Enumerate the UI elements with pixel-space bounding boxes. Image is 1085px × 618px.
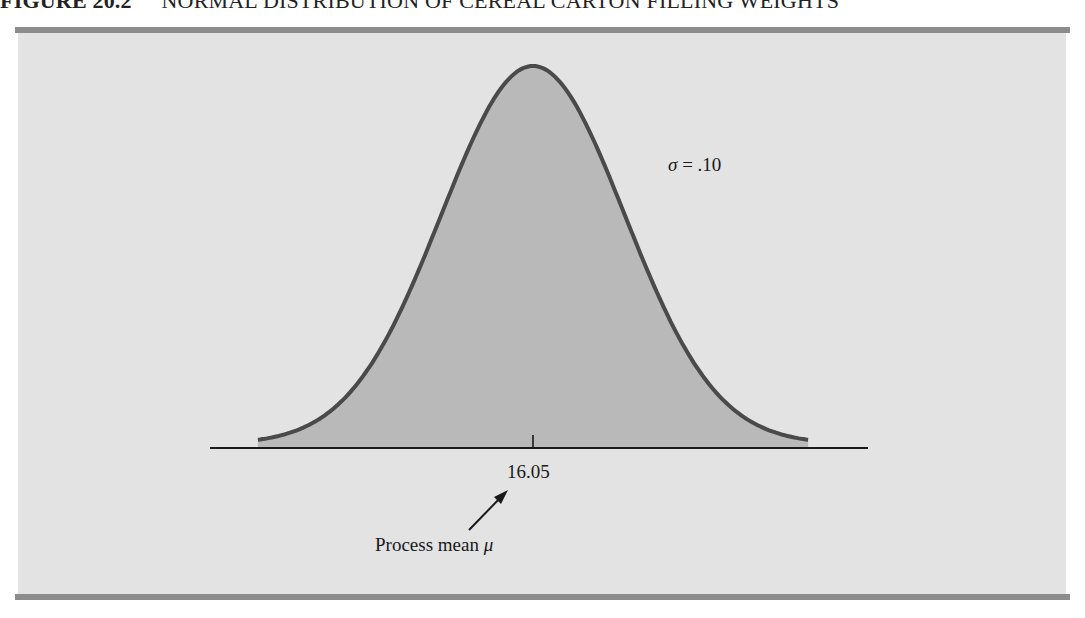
- process-mean-text: Process mean: [375, 534, 484, 555]
- mu-symbol: μ: [484, 534, 494, 555]
- arrow-icon: [469, 490, 508, 530]
- curve-area: [258, 66, 808, 448]
- normal-curve-plot: [0, 0, 1085, 618]
- sigma-symbol: σ: [668, 154, 677, 175]
- mean-tick-label: 16.05: [507, 461, 550, 483]
- sigma-value: = .10: [677, 154, 721, 175]
- process-mean-label: Process mean μ: [375, 534, 493, 556]
- sigma-label: σ = .10: [668, 154, 721, 176]
